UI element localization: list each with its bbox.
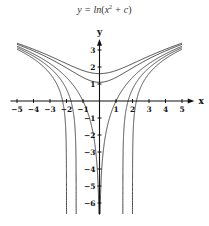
y-tick-label: −1 <box>84 114 96 123</box>
x-tick-label: 1 <box>113 105 118 114</box>
x-tick-label: −1 <box>77 105 89 114</box>
y-tick-label: 1 <box>90 80 95 89</box>
y-axis-label: y <box>96 27 103 37</box>
y-tick-label: −3 <box>84 148 96 157</box>
x-tick-label: 4 <box>163 105 168 114</box>
y-tick-label: −2 <box>84 131 96 140</box>
y-tick-label: 3 <box>90 46 95 55</box>
y-tick-label: −5 <box>84 182 96 191</box>
y-axis-arrow-icon <box>97 39 102 46</box>
y-tick-label: 2 <box>90 63 95 72</box>
x-tick-label: −3 <box>44 105 56 114</box>
axes: −5−4−3−2−112345321−1−2−3−4−5−6xy <box>10 27 204 214</box>
x-tick-label: 2 <box>130 105 135 114</box>
y-tick-label: −6 <box>84 199 96 208</box>
x-tick-label: −2 <box>61 105 73 114</box>
plot-area: −5−4−3−2−112345321−1−2−3−4−5−6xy <box>0 0 209 226</box>
curve-c-2 <box>17 48 76 214</box>
y-tick-label: −4 <box>84 165 96 174</box>
curve-c-4 <box>133 49 183 214</box>
x-axis-label: x <box>198 96 204 106</box>
x-tick-label: 5 <box>179 105 184 114</box>
x-tick-label: 3 <box>146 105 151 114</box>
curve-c-4 <box>17 49 67 214</box>
curve-c-2 <box>123 48 182 214</box>
x-tick-label: −5 <box>11 105 23 114</box>
x-tick-label: −4 <box>28 105 40 114</box>
x-axis-arrow-icon <box>188 99 195 104</box>
